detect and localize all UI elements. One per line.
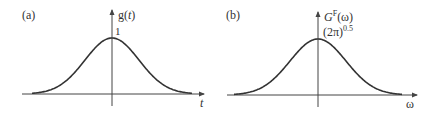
- panel-b: (b) GF(ω) (2π)0.5 ω: [226, 8, 417, 111]
- panel-label-a: (a): [22, 8, 35, 22]
- peak-label-a: 1: [115, 25, 121, 37]
- panel-a: (a) g(t) 1 t: [22, 8, 204, 110]
- x-axis-label-b: ω: [406, 97, 414, 111]
- y-axis-label-a: g(t): [118, 8, 135, 22]
- figure: (a) g(t) 1 t (b) GF(ω) (2π)0.5 ω: [0, 0, 427, 114]
- panel-label-b: (b): [226, 8, 240, 22]
- peak-label-b: (2π)0.5: [323, 24, 353, 39]
- x-axis-label-a: t: [200, 96, 204, 110]
- y-axis-label-b: GF(ω): [324, 9, 353, 24]
